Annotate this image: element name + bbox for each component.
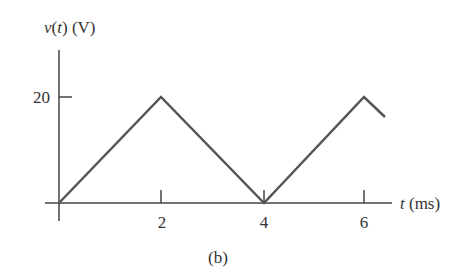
x-axis-label: t (ms): [400, 194, 440, 213]
x-tick-label-6: 6: [360, 213, 369, 232]
y-tick-label-20: 20: [33, 88, 50, 107]
chart: 20 2 4 6 v(t) (V) t (ms) (b): [0, 0, 466, 280]
x-tick-label-4: 4: [260, 213, 269, 232]
triangle-waveform: [59, 97, 385, 203]
x-tick-label-2: 2: [158, 213, 167, 232]
y-axis-label: v(t) (V): [44, 18, 95, 37]
figure-caption: (b): [208, 248, 228, 267]
